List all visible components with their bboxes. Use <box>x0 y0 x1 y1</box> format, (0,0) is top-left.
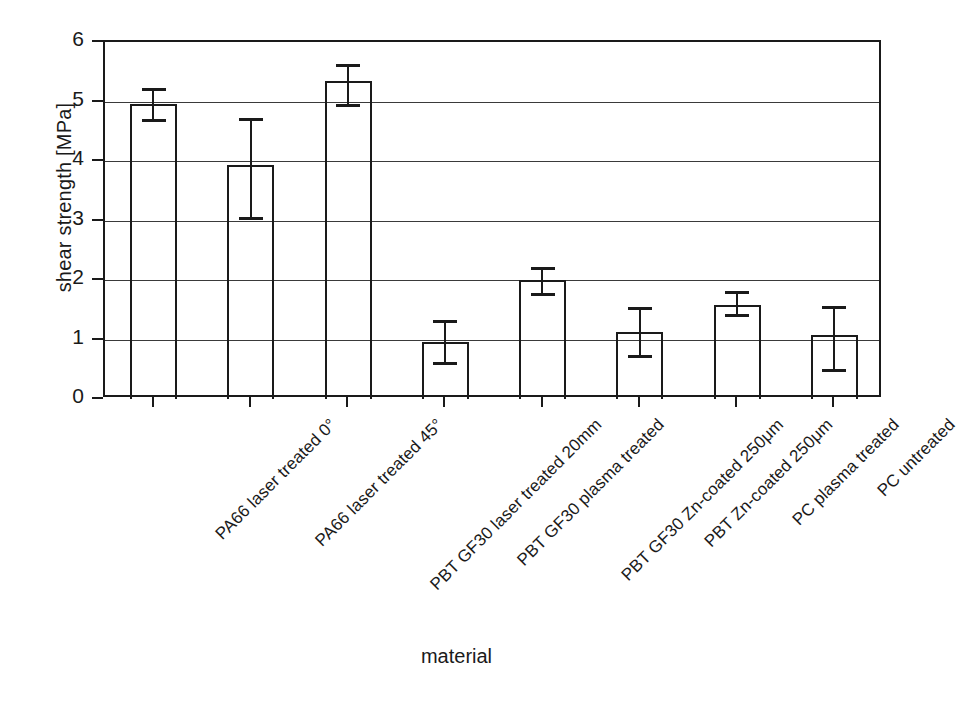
error-bar-stem <box>639 307 641 355</box>
error-bar-cap-lower <box>239 217 263 220</box>
y-tick-label: 1 <box>72 326 84 347</box>
y-tick-label: 5 <box>72 88 84 109</box>
error-bar-cap-upper <box>336 64 360 67</box>
y-tick-label: 6 <box>72 28 84 49</box>
error-bar-cap-lower <box>142 119 166 122</box>
bar <box>519 280 566 399</box>
x-tick-mark <box>249 397 251 407</box>
y-tick-mark-3 <box>92 219 103 221</box>
error-bar-stem <box>347 64 349 104</box>
error-bar-stem <box>250 118 252 217</box>
x-axis-title: material <box>0 645 913 668</box>
y-tick-mark-0 <box>92 397 103 399</box>
error-bar-cap-lower <box>822 369 846 372</box>
plot-area <box>103 40 881 397</box>
error-bar-cap-upper <box>628 307 652 310</box>
error-bar-cap-lower <box>725 314 749 317</box>
y-tick-label: 2 <box>72 266 84 287</box>
error-bar-stem <box>152 88 154 119</box>
x-tick-mark <box>152 397 154 407</box>
error-bar-cap-upper <box>142 88 166 91</box>
y-tick-label: 0 <box>72 385 84 406</box>
x-tick-mark <box>346 397 348 407</box>
y-tick-mark-5 <box>92 100 103 102</box>
y-tick-label: 4 <box>72 147 84 168</box>
x-category-label: PA66 laser treated 0° <box>211 415 340 544</box>
y-tick-mark-2 <box>92 278 103 280</box>
error-bar-stem <box>444 320 446 362</box>
gridline-y-5 <box>105 102 879 103</box>
gridline-y-1 <box>105 340 879 341</box>
error-bar-cap-lower <box>433 362 457 365</box>
error-bar-cap-upper <box>725 291 749 294</box>
gridline-y-3 <box>105 221 879 222</box>
y-tick-mark-6 <box>92 40 103 42</box>
x-tick-mark <box>541 397 543 407</box>
gridline-y-2 <box>105 280 879 281</box>
y-tick-label: 3 <box>72 207 84 228</box>
x-tick-mark <box>638 397 640 407</box>
error-bar-stem <box>541 267 543 293</box>
y-tick-mark-4 <box>92 159 103 161</box>
error-bar-cap-upper <box>531 267 555 270</box>
error-bar-stem <box>736 291 738 314</box>
error-bar-stem <box>833 306 835 370</box>
x-tick-mark <box>735 397 737 407</box>
bar <box>714 305 761 399</box>
x-tick-mark <box>443 397 445 407</box>
y-tick-mark-1 <box>92 338 103 340</box>
error-bar-cap-upper <box>822 306 846 309</box>
bar <box>130 104 177 399</box>
gridline-y-4 <box>105 161 879 162</box>
error-bar-cap-lower <box>531 293 555 296</box>
error-bar-cap-lower <box>336 104 360 107</box>
x-tick-mark <box>832 397 834 407</box>
error-bar-cap-lower <box>628 355 652 358</box>
bar <box>325 81 372 399</box>
error-bar-cap-upper <box>433 320 457 323</box>
error-bar-cap-upper <box>239 118 263 121</box>
